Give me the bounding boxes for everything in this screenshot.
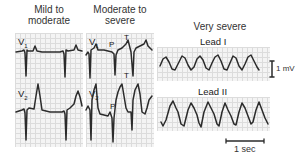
time-scale-bar [0,0,308,157]
time-scale-label: 1 sec [234,144,256,154]
